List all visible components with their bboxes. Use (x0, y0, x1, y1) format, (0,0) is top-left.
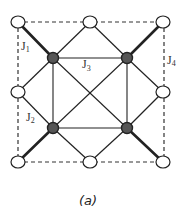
open-node-top-mid (83, 16, 97, 28)
filled-node-inner-bottom-right (122, 123, 133, 134)
label-j4: J4 (167, 53, 176, 68)
open-node-bottom-mid (83, 156, 97, 168)
open-node-top-right (156, 16, 170, 28)
filled-node-inner-bottom-left (48, 123, 59, 134)
label-j1: J1 (21, 39, 30, 54)
open-node-bottom-left (11, 156, 25, 168)
open-node-right-mid (156, 86, 170, 98)
lattice-diagram: J1 J3 J4 J2 (a) (0, 0, 188, 216)
figure-caption: (a) (79, 193, 97, 208)
open-node-left-mid (11, 86, 25, 98)
label-j3: J3 (82, 57, 91, 73)
filled-node-inner-top-right (122, 53, 133, 64)
open-node-top-left (11, 16, 25, 28)
filled-node-inner-top-left (48, 53, 59, 64)
label-j2: J2 (26, 110, 35, 125)
open-node-bottom-right (156, 156, 170, 168)
